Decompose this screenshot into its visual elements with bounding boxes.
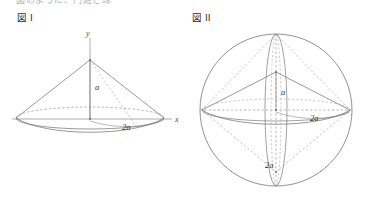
fig1-x-axis-label: x xyxy=(174,115,179,124)
cone-left-slant xyxy=(16,60,90,118)
cone-hidden-slant xyxy=(90,60,136,126)
figure-2-sphere-bicone-diagram: a 2a 2a xyxy=(186,22,367,197)
cone-apex-point xyxy=(89,59,91,61)
fig2-half-height-label: a xyxy=(281,87,285,97)
fig1-radius-label: 2a xyxy=(122,122,131,132)
clipped-header-strip: 図のように、円錐と球 xyxy=(0,0,367,5)
fig1-height-label: a xyxy=(95,82,99,92)
clipped-header-text: 図のように、円錐と球 xyxy=(16,0,111,5)
cone-right-slant xyxy=(90,60,164,118)
cone-base-lower-silhouette xyxy=(16,118,164,132)
figure-1-cone-diagram: y x a 2a xyxy=(0,22,186,147)
fig2-lower-extent-label: 2a xyxy=(265,160,274,170)
fig1-y-axis-label: y xyxy=(85,29,90,38)
fig2-radius-label: 2a xyxy=(310,113,319,123)
cone-origin-point xyxy=(89,118,91,120)
